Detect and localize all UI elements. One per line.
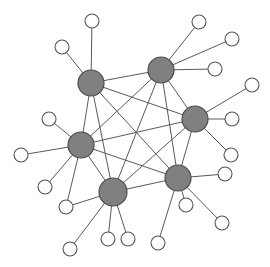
graph-hub-node bbox=[182, 106, 208, 132]
graph-leaf-node bbox=[55, 40, 69, 54]
graph-leaf-node bbox=[85, 14, 99, 28]
network-graph-canvas bbox=[0, 0, 270, 267]
graph-leaf-node bbox=[59, 200, 73, 214]
graph-leaf-node bbox=[224, 148, 238, 162]
graph-hub-node bbox=[99, 178, 127, 206]
graph-hub-node bbox=[78, 70, 104, 96]
graph-hub-node bbox=[68, 132, 94, 158]
graph-leaf-node bbox=[38, 180, 52, 194]
graph-leaf-node bbox=[151, 236, 165, 250]
graph-leaf-node bbox=[215, 216, 229, 230]
graph-leaf-node bbox=[245, 78, 259, 92]
graph-leaf-node bbox=[192, 15, 206, 29]
network-graph-figure bbox=[0, 0, 270, 267]
graph-leaf-node bbox=[218, 167, 232, 181]
graph-leaf-node bbox=[225, 32, 239, 46]
graph-hub-node bbox=[165, 165, 191, 191]
graph-leaf-node bbox=[101, 232, 115, 246]
graph-leaf-node bbox=[63, 242, 77, 256]
graph-leaf-node bbox=[121, 232, 135, 246]
graph-leaf-node bbox=[225, 112, 239, 126]
graph-leaf-node bbox=[42, 112, 56, 126]
graph-leaf-node bbox=[179, 198, 193, 212]
graph-hub-node bbox=[148, 57, 174, 83]
graph-leaf-node bbox=[208, 62, 222, 76]
graph-leaf-node bbox=[14, 148, 28, 162]
